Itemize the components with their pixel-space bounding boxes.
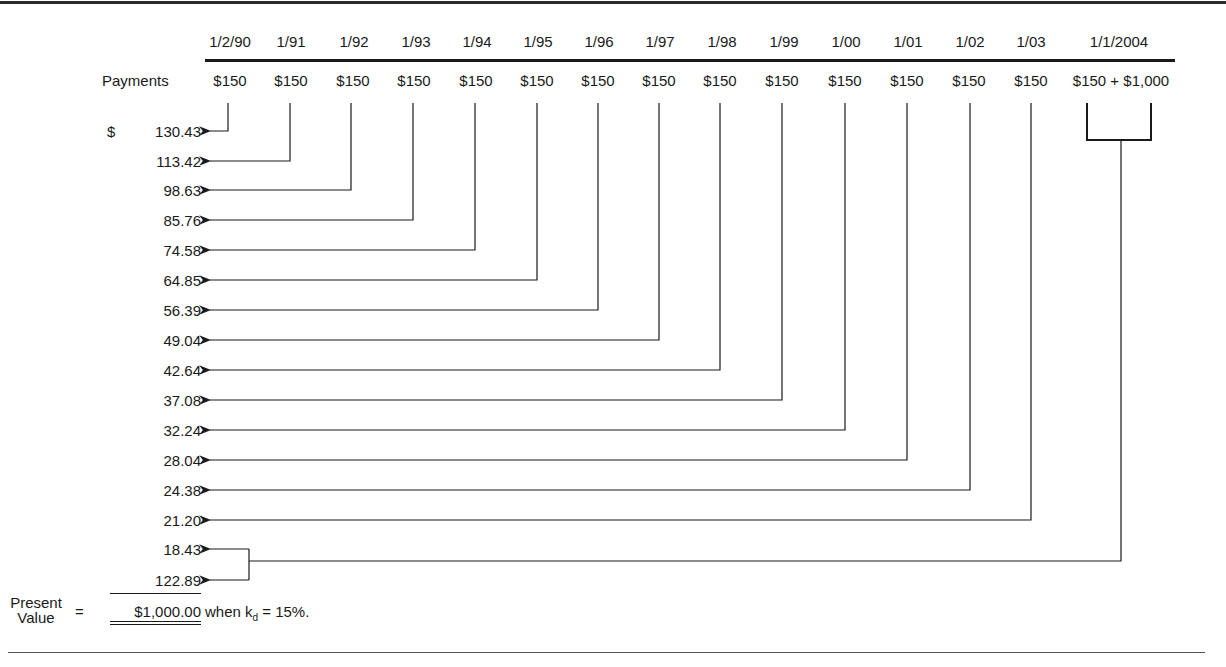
- note-prefix: when k: [205, 603, 253, 620]
- double-underline-bottom: [110, 624, 201, 625]
- present-value: 49.04: [163, 332, 201, 349]
- present-value: 42.64: [163, 362, 201, 379]
- present-value: 21.20: [163, 512, 201, 529]
- present-value-label-line2: Value: [6, 610, 66, 625]
- present-value-label-line1: Present: [6, 595, 66, 610]
- sum-rule: [110, 593, 201, 594]
- double-underline-top: [110, 621, 201, 622]
- discount-rate-note: when kd = 15%.: [205, 603, 309, 623]
- present-value-total: $1,000.00: [98, 603, 201, 620]
- present-value: 37.08: [163, 392, 201, 409]
- present-value: 64.85: [163, 272, 201, 289]
- present-value: 32.24: [163, 422, 201, 439]
- currency-symbol: $: [107, 123, 115, 140]
- present-value-label: Present Value: [6, 595, 66, 625]
- present-value: 74.58: [163, 242, 201, 259]
- bottom-rule: [8, 652, 1205, 653]
- present-value: 24.38: [163, 482, 201, 499]
- present-value: 130.43: [155, 123, 201, 140]
- present-value: 122.89: [155, 572, 201, 589]
- present-value: 85.76: [163, 212, 201, 229]
- present-value: 98.63: [163, 182, 201, 199]
- present-value: 18.43: [163, 541, 201, 558]
- present-value: 113.42: [156, 153, 201, 170]
- present-value: 56.39: [163, 302, 201, 319]
- note-suffix: = 15%.: [258, 603, 309, 620]
- equals-sign: =: [75, 603, 84, 620]
- present-value: 28.04: [163, 452, 201, 469]
